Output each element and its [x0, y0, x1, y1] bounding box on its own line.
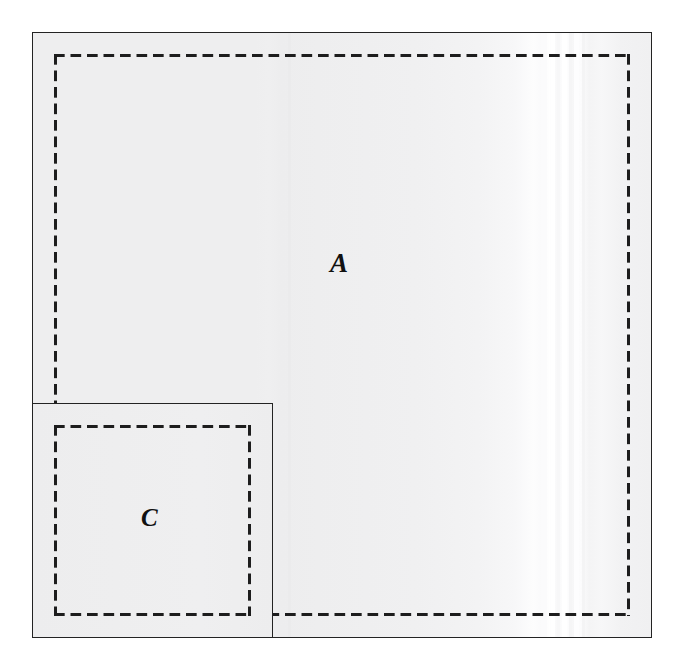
region-a-label: A	[330, 250, 348, 277]
figure-canvas: A C	[0, 0, 687, 670]
region-c-label: C	[141, 505, 158, 530]
